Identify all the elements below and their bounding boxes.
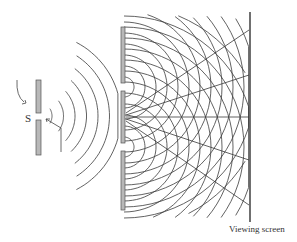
source-arrow-right [46,119,61,152]
barriers [36,27,125,210]
double-slit-diagram: S Viewing screen [0,0,297,242]
barrier-middle [121,91,125,143]
source-label: S [25,112,31,124]
barrier-top [121,27,125,83]
barrier-bottom [121,151,125,210]
wavefront-arc [66,91,75,140]
interference-lines [126,30,249,205]
source-slit-bottom [36,120,41,155]
wavefront-arc [124,16,233,196]
incoming-wavefronts [50,42,118,189]
wavefront-arc [76,42,118,189]
wavefront-arc [71,81,86,152]
diagram-canvas [0,0,297,242]
wavefront-arc [124,66,145,108]
wavefront-arc [77,56,110,176]
slit1-wavefronts [124,15,249,218]
source-slit-top [36,80,41,113]
source-arrow-left [17,80,24,102]
wavefront-arc [124,38,233,218]
screen-label: Viewing screen [229,224,285,234]
